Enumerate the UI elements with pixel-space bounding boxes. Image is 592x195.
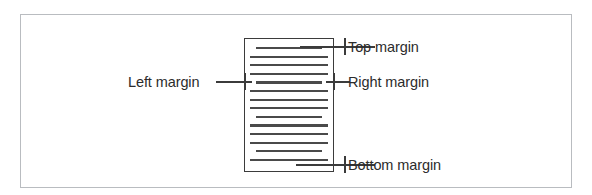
bottom-margin-tick-icon xyxy=(344,156,346,173)
page-text-line xyxy=(250,133,328,135)
page-text-line xyxy=(256,116,322,118)
page-text-line xyxy=(256,150,322,152)
label-right-margin: Right margin xyxy=(348,75,429,90)
left-margin-tick-icon xyxy=(244,73,246,90)
page-text-line xyxy=(250,159,328,161)
page-text-lines-group xyxy=(250,47,328,167)
left-margin-leader-line xyxy=(216,81,252,83)
label-bottom-margin: Bottom margin xyxy=(348,158,441,173)
page-text-line xyxy=(250,56,328,58)
page-text-line xyxy=(250,124,328,126)
page-text-line xyxy=(250,90,328,92)
page-text-line xyxy=(256,81,322,83)
page-text-line xyxy=(250,107,328,109)
page-text-line xyxy=(250,73,328,75)
right-margin-leader-line xyxy=(326,81,350,83)
top-margin-tick-icon xyxy=(344,38,346,55)
margin-diagram-figure: Top margin Left margin Right margin Bott… xyxy=(0,0,592,195)
page-text-line xyxy=(250,99,328,101)
label-top-margin: Top margin xyxy=(348,40,419,55)
page-text-line xyxy=(250,142,328,144)
page-text-line xyxy=(250,64,328,66)
label-left-margin: Left margin xyxy=(128,75,199,90)
right-margin-tick-icon xyxy=(333,73,335,90)
